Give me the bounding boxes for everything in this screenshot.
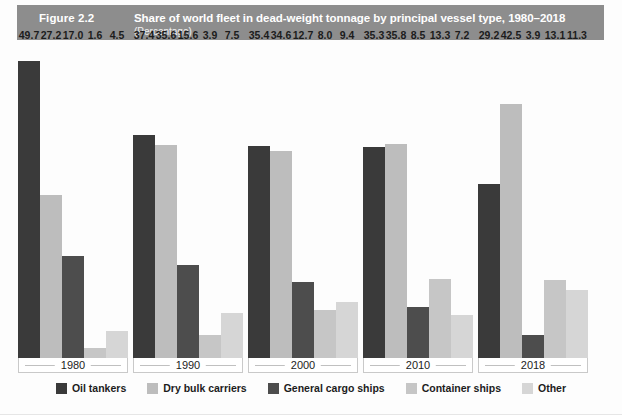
bar-slot: 17.0	[62, 42, 84, 358]
legend-item[interactable]: Container ships	[406, 382, 501, 394]
bar-slot: 37.4	[133, 42, 155, 358]
bar-group: 29.242.53.913.111.3	[478, 42, 588, 358]
legend-swatch-icon	[147, 383, 158, 394]
legend-swatch-icon	[268, 383, 279, 394]
bar-value-label: 35.6	[156, 30, 176, 41]
axis-tick-label-1990: 1990	[170, 359, 206, 372]
bar[interactable]: 17.0	[62, 256, 84, 358]
bar[interactable]: 35.8	[385, 144, 407, 358]
bar[interactable]: 15.6	[177, 265, 199, 358]
bar-group-bars: 35.335.88.513.37.2	[363, 42, 473, 358]
axis-bracket: 1990	[133, 358, 243, 373]
bar-slot: 8.5	[407, 42, 429, 358]
bar[interactable]: 3.9	[199, 335, 221, 358]
axis-bracket: 2018	[478, 358, 588, 373]
bar-slot: 13.3	[429, 42, 451, 358]
bar-slot: 34.6	[270, 42, 292, 358]
legend-label: Oil tankers	[72, 382, 126, 394]
bar[interactable]: 35.6	[155, 145, 177, 358]
bar-slot: 35.3	[363, 42, 385, 358]
bar-group: 37.435.615.63.97.5	[133, 42, 243, 358]
legend-swatch-icon	[56, 383, 67, 394]
bar[interactable]: 42.5	[500, 104, 522, 358]
bar-group-bars: 37.435.615.63.97.5	[133, 42, 243, 358]
bar-value-label: 4.5	[110, 30, 125, 41]
chart-legend: Oil tankersDry bulk carriersGeneral carg…	[0, 382, 622, 394]
bar[interactable]: 29.2	[478, 184, 500, 358]
bar[interactable]: 27.2	[40, 195, 62, 358]
bar-slot: 35.6	[155, 42, 177, 358]
legend-label: General cargo ships	[284, 382, 385, 394]
legend-swatch-icon	[406, 383, 417, 394]
bar-value-label: 3.9	[526, 30, 541, 41]
legend-item[interactable]: Oil tankers	[56, 382, 126, 394]
bar-value-label: 15.6	[178, 30, 198, 41]
axis-tick-label-1980: 1980	[55, 359, 91, 372]
axis-bracket: 2010	[363, 358, 473, 373]
bar-slot: 12.7	[292, 42, 314, 358]
bar-group-bars: 49.727.217.01.64.5	[18, 42, 128, 358]
bar-slot: 7.2	[451, 42, 473, 358]
bar-value-label: 29.2	[479, 30, 499, 41]
bar[interactable]: 13.3	[429, 279, 451, 358]
bar-slot: 27.2	[40, 42, 62, 358]
bar-value-label: 37.4	[134, 30, 154, 41]
legend-swatch-icon	[522, 383, 533, 394]
bar-value-label: 12.7	[293, 30, 313, 41]
bar-slot: 4.5	[106, 42, 128, 358]
bar-slot: 35.8	[385, 42, 407, 358]
bar[interactable]: 34.6	[270, 151, 292, 358]
bar-slot: 29.2	[478, 42, 500, 358]
bar-value-label: 34.6	[271, 30, 291, 41]
bar-value-label: 27.2	[41, 30, 61, 41]
bar-value-label: 1.6	[88, 30, 103, 41]
axis-bracket: 2000	[248, 358, 358, 373]
legend-item[interactable]: Dry bulk carriers	[147, 382, 246, 394]
bar-value-label: 3.9	[203, 30, 218, 41]
bar-group-bars: 29.242.53.913.111.3	[478, 42, 588, 358]
bar[interactable]: 1.6	[84, 348, 106, 358]
bar-slot: 42.5	[500, 42, 522, 358]
bar[interactable]: 8.0	[314, 310, 336, 358]
figure-page: Figure 2.2 Share of world fleet in dead-…	[0, 0, 622, 415]
figure-number-label: Figure 2.2	[39, 12, 94, 24]
bar-slot: 3.9	[522, 42, 544, 358]
bar-value-label: 49.7	[19, 30, 39, 41]
bar-slot: 35.4	[248, 42, 270, 358]
bar[interactable]: 13.1	[544, 280, 566, 358]
bar[interactable]: 4.5	[106, 331, 128, 358]
bar-slot: 7.5	[221, 42, 243, 358]
bar[interactable]: 35.4	[248, 146, 270, 358]
bar-slot: 9.4	[336, 42, 358, 358]
axis-bracket: 1980	[18, 358, 128, 373]
bar[interactable]: 11.3	[566, 290, 588, 358]
bar[interactable]: 3.9	[522, 335, 544, 358]
bar[interactable]: 8.5	[407, 307, 429, 358]
legend-item[interactable]: General cargo ships	[268, 382, 385, 394]
axis-tick-label-2018: 2018	[515, 359, 551, 372]
bar-value-label: 8.5	[411, 30, 426, 41]
legend-label: Dry bulk carriers	[163, 382, 246, 394]
bar-slot: 8.0	[314, 42, 336, 358]
bar[interactable]: 9.4	[336, 302, 358, 358]
chart-plot-area: 49.727.217.01.64.537.435.615.63.97.535.4…	[0, 42, 622, 358]
bar-value-label: 11.3	[567, 30, 587, 41]
bar-group: 35.335.88.513.37.2	[363, 42, 473, 358]
bar-value-label: 9.4	[340, 30, 355, 41]
bar-slot: 15.6	[177, 42, 199, 358]
bar-value-label: 13.1	[545, 30, 565, 41]
bar[interactable]: 12.7	[292, 282, 314, 358]
bar[interactable]: 7.2	[451, 315, 473, 358]
bar[interactable]: 7.5	[221, 313, 243, 358]
bar[interactable]: 35.3	[363, 147, 385, 358]
legend-label: Container ships	[422, 382, 501, 394]
axis-tick-label-2000: 2000	[285, 359, 321, 372]
bar-slot: 49.7	[18, 42, 40, 358]
bar-value-label: 42.5	[501, 30, 521, 41]
bar-value-label: 35.3	[364, 30, 384, 41]
bar[interactable]: 49.7	[18, 61, 40, 358]
bar-group: 35.434.612.78.09.4	[248, 42, 358, 358]
bar[interactable]: 37.4	[133, 135, 155, 358]
legend-item[interactable]: Other	[522, 382, 566, 394]
bar-value-label: 17.0	[63, 30, 83, 41]
